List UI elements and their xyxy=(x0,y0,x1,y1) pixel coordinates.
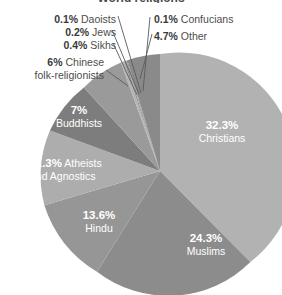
callout-value-sikhs: 0.4% xyxy=(63,39,87,51)
slice-label-muslims: 24.3% Muslims xyxy=(166,232,246,258)
callout-label-jews: 0.2% Jews xyxy=(0,26,116,39)
slice-name2-atheists: and Agnostics xyxy=(30,170,150,183)
slice-name-atheists: Atheists xyxy=(64,157,101,169)
callout-value-daoists: 0.1% xyxy=(54,13,78,25)
callout-name-jews: Jews xyxy=(92,26,116,38)
pie-chart-figure: World religions xyxy=(0,0,282,295)
slice-value-hindu: 13.6% xyxy=(83,209,116,221)
callout-label-other: 4.7% Other xyxy=(154,30,207,43)
slice-label-christians: 32.3% Christians xyxy=(180,119,264,145)
slice-value-christians: 32.3% xyxy=(206,119,239,131)
slice-name-christians: Christians xyxy=(180,132,264,145)
callout-value-confucians: 0.1% xyxy=(154,13,178,25)
slice-label-atheists: 11.3% Atheists and Agnostics xyxy=(30,157,150,183)
callout-value-jews: 0.2% xyxy=(65,26,89,38)
callout-label-confucians: 0.1% Confucians xyxy=(154,13,233,26)
slice-value-buddhists: 7% xyxy=(71,104,88,116)
callout-name-chinese: Chinese xyxy=(65,56,104,68)
slice-name-buddhists: Buddhists xyxy=(44,117,114,130)
callout-value-other: 4.7% xyxy=(154,30,178,42)
callout-label-chinese-folk-religionists: 6% Chinese folk-religionists xyxy=(0,56,104,81)
slice-name-muslims: Muslims xyxy=(166,245,246,258)
callout-name-daoists: Daoists xyxy=(81,13,116,25)
callout-label-daoists: 0.1% Daoists xyxy=(0,13,116,26)
slice-label-hindu: 13.6% Hindu xyxy=(64,209,134,235)
slice-name-hindu: Hindu xyxy=(64,222,134,235)
callout-label-sikhs: 0.4% Sikhs xyxy=(0,39,116,52)
callout-name2-chinese: folk-religionists xyxy=(35,69,104,81)
callout-value-chinese: 6% xyxy=(47,56,62,68)
callout-name-other: Other xyxy=(181,30,207,42)
callout-name-sikhs: Sikhs xyxy=(90,39,116,51)
slice-value-muslims: 24.3% xyxy=(190,232,223,244)
slice-value-atheists: 11.3% xyxy=(30,157,62,169)
slice-label-buddhists: 7% Buddhists xyxy=(44,104,114,130)
callout-name-confucians: Confucians xyxy=(181,13,234,25)
